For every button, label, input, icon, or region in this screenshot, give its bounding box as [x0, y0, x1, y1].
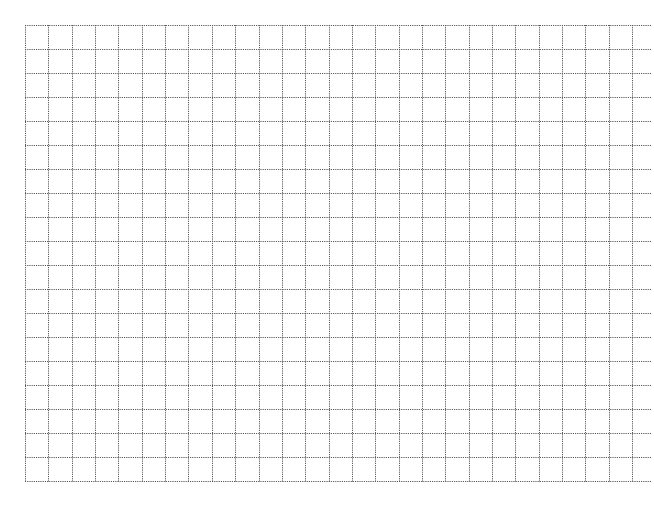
horizontal-grid-lines [25, 26, 652, 482]
grid-paper [0, 0, 654, 508]
vertical-grid-lines [26, 25, 633, 482]
